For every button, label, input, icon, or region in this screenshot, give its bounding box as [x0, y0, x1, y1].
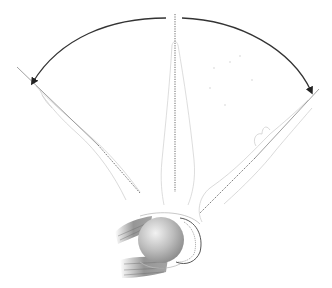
arc-right-arrow — [182, 18, 311, 91]
faint-sketch-marks — [209, 55, 253, 106]
arc-left-arrow — [33, 18, 166, 82]
humeral-head — [138, 217, 184, 263]
axis-left-solid — [17, 67, 98, 145]
arm-left-outline — [36, 86, 140, 200]
shoulder-rotation-diagram — [0, 0, 332, 288]
arm-right-outline — [199, 100, 312, 222]
arm-neutral-outline — [161, 41, 194, 205]
axis-right-solid — [255, 89, 319, 158]
axis-right-dotted — [200, 158, 255, 213]
